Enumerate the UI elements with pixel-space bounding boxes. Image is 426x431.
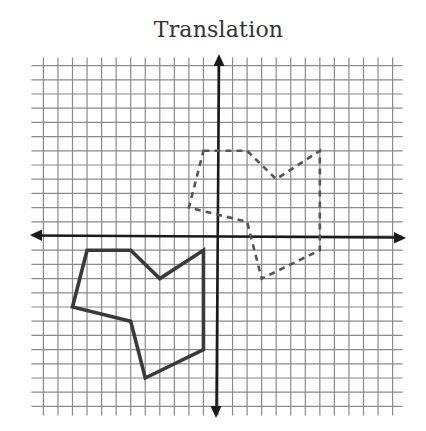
- image-shape-dashed: [189, 151, 320, 279]
- x-axis-left-arrow-icon: [30, 230, 42, 242]
- x-axis-right-arrow-icon: [394, 232, 406, 244]
- y-axis-up-arrow-icon: [214, 54, 225, 66]
- y-axis: [217, 62, 220, 410]
- coordinate-plane: [0, 0, 426, 431]
- y-axis-down-arrow-icon: [211, 406, 222, 418]
- preimage-shape-solid: [73, 250, 204, 378]
